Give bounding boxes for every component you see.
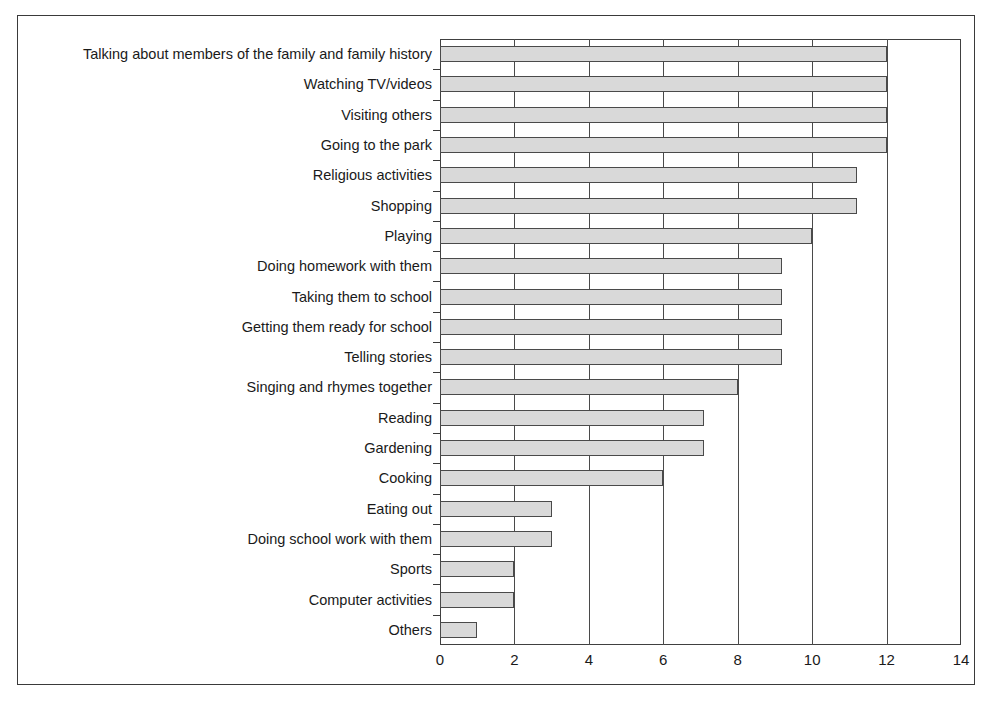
y-axis-tick: [433, 100, 440, 101]
bar[interactable]: [440, 561, 514, 577]
bar-row: [440, 403, 961, 433]
category-label: Reading: [10, 411, 440, 426]
bar-row: [440, 494, 961, 524]
bar[interactable]: [440, 410, 704, 426]
figure: Talking about members of the family and …: [0, 0, 992, 701]
bar-row: [440, 463, 961, 493]
x-tick-label-12: 12: [878, 652, 895, 667]
y-axis-tick: [433, 615, 440, 616]
y-axis-tick: [433, 494, 440, 495]
bar-row: [440, 221, 961, 251]
bar[interactable]: [440, 622, 477, 638]
plot-area: [440, 39, 961, 645]
bar[interactable]: [440, 198, 857, 214]
category-label: Doing homework with them: [10, 259, 440, 274]
bar-row: [440, 433, 961, 463]
y-axis-tick: [433, 191, 440, 192]
bar[interactable]: [440, 137, 887, 153]
category-label: Gardening: [10, 441, 440, 456]
bar-row: [440, 39, 961, 69]
x-tick-label-8: 8: [734, 652, 742, 667]
y-axis-tick: [433, 130, 440, 131]
y-axis-tick: [433, 312, 440, 313]
category-label: Singing and rhymes together: [10, 380, 440, 395]
category-label: Taking them to school: [10, 290, 440, 305]
x-tick-label-14: 14: [953, 652, 970, 667]
category-label: Getting them ready for school: [10, 320, 440, 335]
bar-row: [440, 615, 961, 645]
bar[interactable]: [440, 501, 552, 517]
bar[interactable]: [440, 470, 663, 486]
bar[interactable]: [440, 349, 782, 365]
bar[interactable]: [440, 76, 887, 92]
bar-row: [440, 160, 961, 190]
category-label: Computer activities: [10, 593, 440, 608]
y-axis-tick: [433, 403, 440, 404]
bar-row: [440, 342, 961, 372]
x-tick-label-10: 10: [804, 652, 821, 667]
bar[interactable]: [440, 289, 782, 305]
bar[interactable]: [440, 531, 552, 547]
bar-row: [440, 554, 961, 584]
y-axis-tick: [433, 160, 440, 161]
category-label: Doing school work with them: [10, 532, 440, 547]
bar-row: [440, 69, 961, 99]
category-label: Talking about members of the family and …: [10, 47, 440, 62]
bar-row: [440, 130, 961, 160]
bar-row: [440, 281, 961, 311]
bar-row: [440, 251, 961, 281]
category-label: Playing: [10, 229, 440, 244]
bar[interactable]: [440, 592, 514, 608]
y-axis-tick: [433, 69, 440, 70]
bar[interactable]: [440, 258, 782, 274]
bar-row: [440, 100, 961, 130]
y-axis-tick: [433, 524, 440, 525]
y-axis-tick: [433, 372, 440, 373]
y-axis-tick: [433, 584, 440, 585]
category-label: Watching TV/videos: [10, 77, 440, 92]
bar[interactable]: [440, 46, 887, 62]
bar-row: [440, 312, 961, 342]
bar[interactable]: [440, 319, 782, 335]
bar-row: [440, 372, 961, 402]
y-axis-tick: [433, 221, 440, 222]
bar[interactable]: [440, 228, 812, 244]
y-axis-tick: [433, 463, 440, 464]
bar[interactable]: [440, 167, 857, 183]
category-label: Sports: [10, 562, 440, 577]
category-label: Going to the park: [10, 138, 440, 153]
y-axis-tick: [433, 251, 440, 252]
category-label: Religious activities: [10, 168, 440, 183]
x-axis-tick-labels: 02468101214: [440, 652, 961, 676]
bar-row: [440, 584, 961, 614]
category-axis-labels: Talking about members of the family and …: [0, 39, 440, 645]
category-label: Eating out: [10, 502, 440, 517]
category-label: Others: [10, 623, 440, 638]
category-label: Shopping: [10, 199, 440, 214]
bar[interactable]: [440, 107, 887, 123]
category-label: Telling stories: [10, 350, 440, 365]
x-tick-label-6: 6: [659, 652, 667, 667]
category-label: Cooking: [10, 471, 440, 486]
bar-row: [440, 191, 961, 221]
y-axis-tick: [433, 281, 440, 282]
bar-row: [440, 524, 961, 554]
x-tick-label-4: 4: [585, 652, 593, 667]
x-tick-label-2: 2: [510, 652, 518, 667]
y-axis-tick: [433, 554, 440, 555]
y-axis-tick: [433, 342, 440, 343]
x-tick-label-0: 0: [436, 652, 444, 667]
bar[interactable]: [440, 440, 704, 456]
y-axis-tick: [433, 433, 440, 434]
bar[interactable]: [440, 379, 738, 395]
category-label: Visiting others: [10, 108, 440, 123]
